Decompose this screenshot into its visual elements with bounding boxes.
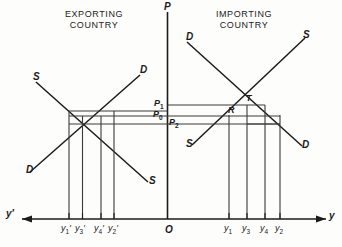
price-axis-label: P <box>164 2 171 12</box>
tick-label-y3-sub: 3 <box>247 228 251 235</box>
price-label-p2: P2 <box>169 118 179 129</box>
price-label-p2-sub: 2 <box>175 122 179 129</box>
tick-label-y1: y1 <box>224 224 232 235</box>
tick-label-y3-prime: y3′ <box>75 224 85 235</box>
origin-label: O <box>165 225 173 235</box>
left-quantity-axis-label: y′ <box>6 209 14 219</box>
figure-canvas: EXPORTING COUNTRY IMPORTING COUNTRY P O … <box>0 0 342 247</box>
left-axis-arrowhead <box>22 216 32 223</box>
tick-label-y1-prime: y1′ <box>61 224 71 235</box>
left-supply-label-top: S <box>33 72 40 82</box>
axis-ticks-group <box>69 213 280 219</box>
right-axis-arrowhead <box>316 216 326 223</box>
right-supply-label-top: S <box>303 30 310 40</box>
tick-label-y2-prime-mark: ′ <box>116 223 118 233</box>
tick-label-y1-sub: 1 <box>229 228 233 235</box>
point-label-t: T <box>246 94 252 103</box>
left-supply-curve <box>36 82 148 182</box>
right-panel-title-line1: IMPORTING <box>196 10 292 19</box>
left-supply-label-bottom: S <box>149 176 156 186</box>
tick-label-y3-prime-mark: ′ <box>83 223 85 233</box>
left-droplines-group <box>69 111 114 219</box>
left-demand-label-bottom: D <box>26 165 33 175</box>
right-demand-label-bottom: D <box>302 140 309 150</box>
tick-label-y4: y4 <box>260 224 268 235</box>
tick-label-y4-sub: 4 <box>265 228 269 235</box>
right-panel-curves <box>187 38 305 146</box>
left-demand-label-top: D <box>140 65 147 75</box>
right-panel-title-line2: COUNTRY <box>196 21 292 30</box>
right-droplines-group <box>229 105 280 219</box>
tick-label-y4-prime-mark: ′ <box>102 223 104 233</box>
right-supply-curve <box>192 38 305 145</box>
tick-label-y2-sub: 2 <box>280 228 284 235</box>
tick-label-y2: y2 <box>275 224 283 235</box>
price-label-p1-sub: 1 <box>160 103 164 110</box>
right-quantity-axis-label: y <box>329 211 335 221</box>
tick-label-y3: y3 <box>242 224 250 235</box>
left-panel-curves <box>30 75 148 182</box>
left-panel-title-line2: COUNTRY <box>46 21 142 30</box>
right-demand-label-top: D <box>186 32 193 42</box>
tick-label-y4-prime: y4′ <box>94 224 104 235</box>
price-label-p0: P0 <box>153 110 163 121</box>
left-panel-title-line1: EXPORTING <box>46 10 142 19</box>
price-label-p0-sub: 0 <box>159 114 163 121</box>
tick-label-y1-prime-mark: ′ <box>69 223 71 233</box>
right-supply-label-bottom: S <box>186 139 193 149</box>
tick-label-y2-prime: y2′ <box>108 224 118 235</box>
point-label-r: R <box>228 106 235 115</box>
